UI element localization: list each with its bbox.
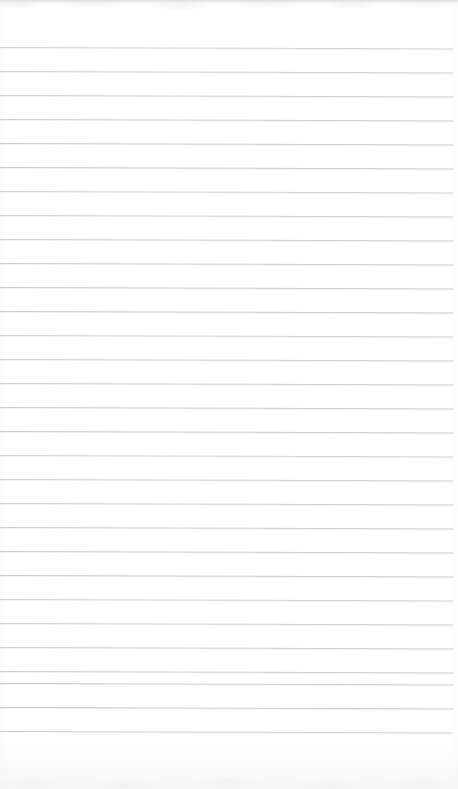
rule-line <box>0 455 453 457</box>
rule-line <box>0 575 453 577</box>
rule-line <box>0 527 453 529</box>
rule-line <box>0 479 453 481</box>
rule-line <box>0 671 453 673</box>
rule-line <box>0 383 453 385</box>
rule-line <box>0 731 453 733</box>
rule-line <box>0 191 453 193</box>
rule-line <box>0 119 453 121</box>
rule-line <box>0 503 453 505</box>
rule-line <box>0 143 453 145</box>
rule-line <box>0 95 453 97</box>
rule-line <box>0 335 453 337</box>
rule-line <box>0 287 453 289</box>
rule-line <box>0 47 453 49</box>
rule-line <box>0 623 453 625</box>
rule-line <box>0 407 453 409</box>
rule-line <box>0 239 453 241</box>
rule-line <box>0 431 453 433</box>
rule-line <box>0 263 453 265</box>
rule-line <box>0 71 453 73</box>
rule-line <box>0 647 453 649</box>
rule-line <box>0 683 453 685</box>
rule-line <box>0 215 453 217</box>
rule-line <box>0 359 453 361</box>
rule-line <box>0 707 453 709</box>
scanned-page <box>0 0 458 789</box>
ruled-lines-group <box>0 0 458 789</box>
rule-line <box>0 599 453 601</box>
rule-line <box>0 551 453 553</box>
rule-line <box>0 311 453 313</box>
rule-line <box>0 167 453 169</box>
